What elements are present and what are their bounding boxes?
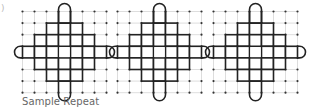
left-rounded-bar bbox=[14, 46, 22, 58]
right-rounded-bar bbox=[298, 46, 306, 58]
grid-dot bbox=[140, 10, 142, 12]
grid-dot bbox=[21, 68, 23, 70]
grid-dot bbox=[236, 10, 238, 12]
grid-dot bbox=[128, 92, 130, 94]
motif bbox=[14, 4, 114, 101]
grid-dot bbox=[128, 80, 130, 82]
grid-dot bbox=[296, 68, 298, 70]
grid-dot bbox=[116, 80, 118, 82]
grid-dot bbox=[200, 22, 202, 24]
grid-dot bbox=[176, 10, 178, 12]
top-rounded-bar bbox=[250, 4, 262, 24]
grid-dot bbox=[224, 10, 226, 12]
grid-dot bbox=[105, 92, 107, 94]
grid-dot bbox=[116, 92, 118, 94]
grid-dot bbox=[93, 80, 95, 82]
grid-dot bbox=[21, 80, 23, 82]
grid-dot bbox=[296, 22, 298, 24]
grid-dot bbox=[21, 22, 23, 24]
grid-dot bbox=[236, 92, 238, 94]
grid-dot bbox=[81, 10, 83, 12]
grid-dot bbox=[296, 92, 298, 94]
grid-dot bbox=[128, 10, 130, 12]
grid-dot bbox=[116, 34, 118, 36]
top-rounded-bar bbox=[154, 4, 166, 24]
grid-dot bbox=[81, 92, 83, 94]
grid-dot bbox=[93, 22, 95, 24]
figure-caption: Sample Repeat bbox=[22, 96, 99, 107]
grid-dot bbox=[212, 10, 214, 12]
grid-dot bbox=[212, 68, 214, 70]
grid-dot bbox=[93, 10, 95, 12]
grid-dot bbox=[200, 34, 202, 36]
grid-dot bbox=[188, 22, 190, 24]
grid-dot bbox=[116, 10, 118, 12]
grid-dot bbox=[21, 92, 23, 94]
motif bbox=[206, 4, 306, 101]
grid-dot bbox=[33, 80, 35, 82]
grid-dot bbox=[224, 92, 226, 94]
grid-dot bbox=[21, 10, 23, 12]
grid-dot bbox=[200, 80, 202, 82]
sample-repeat-diagram bbox=[0, 0, 318, 111]
motif bbox=[110, 4, 210, 101]
repeat-block-1 bbox=[14, 4, 114, 101]
bottom-rounded-bar bbox=[250, 81, 262, 101]
grid-dot bbox=[116, 68, 118, 70]
grid-dot bbox=[105, 68, 107, 70]
grid-dot bbox=[212, 92, 214, 94]
grid-dot bbox=[176, 92, 178, 94]
grid-dot bbox=[284, 80, 286, 82]
grid-dot bbox=[105, 34, 107, 36]
grid-dot bbox=[284, 10, 286, 12]
grid-dot bbox=[212, 22, 214, 24]
grid-dot bbox=[224, 80, 226, 82]
grid-dot bbox=[33, 22, 35, 24]
grid-dot bbox=[188, 92, 190, 94]
grid-dot bbox=[212, 34, 214, 36]
grid-dot bbox=[272, 10, 274, 12]
grid-dot bbox=[200, 68, 202, 70]
grid-dot bbox=[105, 80, 107, 82]
grid-dot bbox=[45, 10, 47, 12]
repeat-block-3 bbox=[206, 4, 306, 101]
bottom-rounded-bar bbox=[154, 81, 166, 101]
grid-dot bbox=[212, 80, 214, 82]
grid-dot bbox=[188, 10, 190, 12]
grid-dot bbox=[272, 92, 274, 94]
grid-dot bbox=[284, 22, 286, 24]
grid-dot bbox=[45, 92, 47, 94]
grid-dot bbox=[128, 22, 130, 24]
grid-dot bbox=[188, 80, 190, 82]
grid-dot bbox=[105, 10, 107, 12]
grid-dot bbox=[200, 92, 202, 94]
grid-dot bbox=[224, 22, 226, 24]
grid-dot bbox=[21, 34, 23, 36]
grid-dot bbox=[296, 34, 298, 36]
top-rounded-bar bbox=[59, 4, 71, 24]
grid-dot bbox=[284, 92, 286, 94]
grid-dot bbox=[296, 80, 298, 82]
repeat-block-2 bbox=[110, 4, 210, 101]
grid-dot bbox=[93, 92, 95, 94]
grid-dot bbox=[200, 10, 202, 12]
grid-dot bbox=[116, 22, 118, 24]
grid-dot bbox=[33, 92, 35, 94]
grid-dot bbox=[33, 10, 35, 12]
grid-dot bbox=[105, 22, 107, 24]
grid-dot bbox=[140, 92, 142, 94]
grid-dot bbox=[296, 10, 298, 12]
